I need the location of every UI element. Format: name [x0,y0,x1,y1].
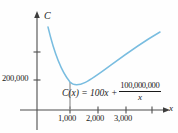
cost-curve [48,27,160,85]
formula-numerator: 100,000,000 [119,81,160,91]
formula-left-side: C(x) = 100x + [62,85,117,99]
formula-fraction: 100,000,000 x [119,81,160,102]
y-axis-label: C [44,11,51,21]
y-axis-tick-label-200000: 200,000 [2,74,28,83]
x-axis-tick-label-3000: 3,000 [114,114,132,123]
formula-denominator: x [138,92,142,102]
x-axis-label: x [169,104,173,113]
cost-function-formula: C(x) = 100x + 100,000,000 x [62,81,161,102]
y-axis-arrowhead [34,11,40,18]
x-axis-tick-label-1000: 1,000 [58,114,76,123]
cost-function-graph-figure: C x 200,000 1,000 2,000 3,000 C(x) = 100… [0,0,178,133]
x-axis-tick-label-2000: 2,000 [86,114,104,123]
